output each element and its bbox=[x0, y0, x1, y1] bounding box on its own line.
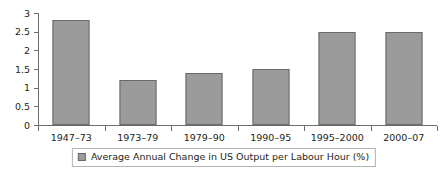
bar[interactable] bbox=[319, 32, 356, 125]
plot-area: 00.511.522.53 1947–731973–791979–901990–… bbox=[38, 13, 437, 125]
bar[interactable] bbox=[252, 69, 289, 125]
bar[interactable] bbox=[119, 80, 156, 125]
y-axis-tick-label: 1.5 bbox=[15, 65, 30, 75]
x-axis-tick bbox=[105, 126, 106, 131]
y-axis-tick-label: 2 bbox=[24, 46, 30, 56]
x-axis-tick bbox=[304, 126, 305, 131]
y-axis-tick-label: 0.5 bbox=[15, 102, 30, 112]
legend-swatch-icon bbox=[78, 153, 86, 161]
x-axis-category-label: 1990–95 bbox=[238, 133, 305, 143]
legend-entry-label: Average Annual Change in US Output per L… bbox=[91, 152, 369, 162]
bar[interactable] bbox=[53, 20, 90, 125]
bar-slot bbox=[304, 13, 371, 125]
x-axis-tick bbox=[171, 126, 172, 131]
bar-slot bbox=[238, 13, 305, 125]
x-axis-category-label: 1979–90 bbox=[171, 133, 238, 143]
x-axis-category-label: 1995–2000 bbox=[304, 133, 371, 143]
x-axis-tick bbox=[238, 126, 239, 131]
bar-slot bbox=[171, 13, 238, 125]
bars-layer bbox=[38, 13, 437, 125]
bar-slot bbox=[371, 13, 438, 125]
y-axis-tick-label: 1 bbox=[24, 83, 30, 93]
x-axis-tick bbox=[38, 126, 39, 131]
chart-legend: Average Annual Change in US Output per L… bbox=[72, 148, 376, 167]
y-axis-tick-label: 0 bbox=[24, 121, 30, 131]
x-axis-category-label: 1947–73 bbox=[38, 133, 105, 143]
y-axis-tick-label: 2.5 bbox=[15, 27, 30, 37]
bar-slot bbox=[38, 13, 105, 125]
bar-slot bbox=[105, 13, 172, 125]
bar-chart-figure: 00.511.522.53 1947–731973–791979–901990–… bbox=[0, 0, 448, 176]
bar[interactable] bbox=[385, 32, 422, 125]
bar[interactable] bbox=[186, 73, 223, 125]
y-axis-tick-label: 3 bbox=[24, 9, 30, 19]
x-axis-tick bbox=[437, 126, 438, 131]
x-axis-category-label: 2000–07 bbox=[371, 133, 438, 143]
x-axis-tick bbox=[371, 126, 372, 131]
x-axis-category-label: 1973–79 bbox=[105, 133, 172, 143]
